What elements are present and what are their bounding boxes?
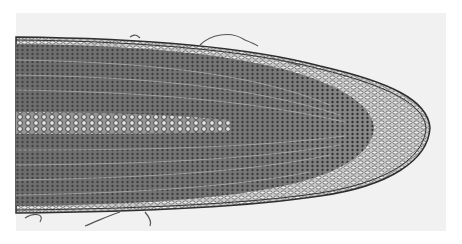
root-tip-illustration — [0, 0, 462, 244]
